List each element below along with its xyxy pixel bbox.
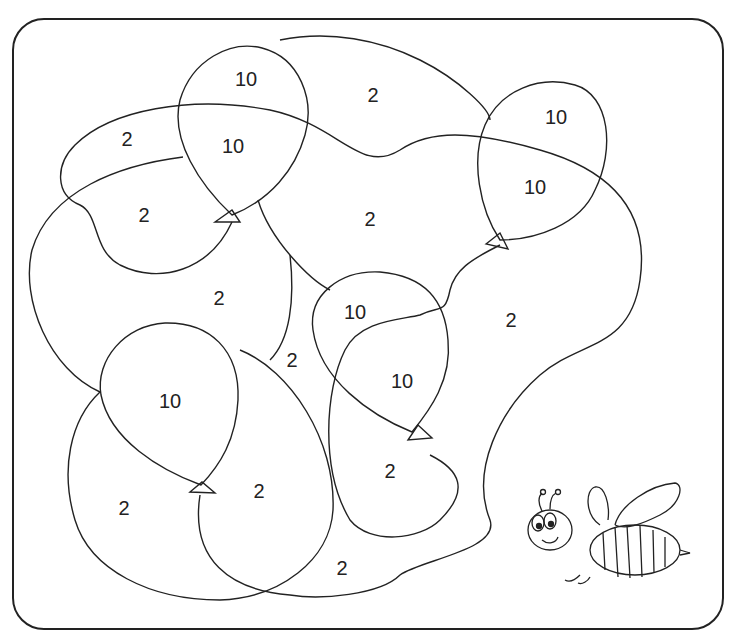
region-label[interactable]: 2 xyxy=(253,480,264,503)
balloon-center xyxy=(312,272,448,432)
region-label[interactable]: 2 xyxy=(364,208,375,231)
region-label[interactable]: 2 xyxy=(213,287,224,310)
region-label[interactable]: 10 xyxy=(159,390,181,413)
region-label[interactable]: 10 xyxy=(545,106,567,129)
region-label[interactable]: 2 xyxy=(286,349,297,372)
region-label[interactable]: 2 xyxy=(336,557,347,580)
region-label[interactable]: 10 xyxy=(344,301,366,324)
bee-illustration xyxy=(528,483,690,584)
region-label[interactable]: 2 xyxy=(505,309,516,332)
region-label[interactable]: 10 xyxy=(235,68,257,91)
region-label[interactable]: 2 xyxy=(138,204,149,227)
region-label[interactable]: 10 xyxy=(524,176,546,199)
region-label[interactable]: 2 xyxy=(121,128,132,151)
region-label[interactable]: 2 xyxy=(367,84,378,107)
region-label[interactable]: 2 xyxy=(384,460,395,483)
region-label[interactable]: 10 xyxy=(391,370,413,393)
region-label[interactable]: 2 xyxy=(118,497,129,520)
balloon-top-right xyxy=(478,82,607,240)
region-label[interactable]: 10 xyxy=(222,135,244,158)
